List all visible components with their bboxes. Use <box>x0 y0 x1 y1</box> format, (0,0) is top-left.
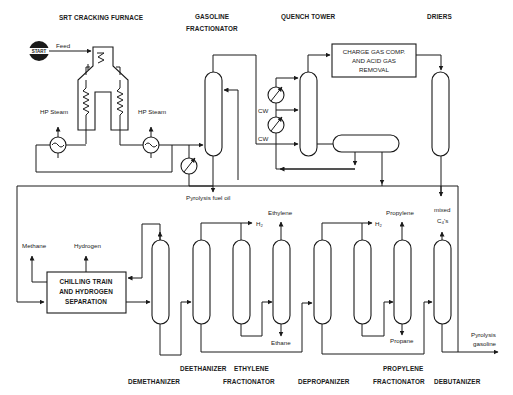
quench-cooler-top <box>268 87 284 103</box>
box-charge-gas-line3: REMOVAL <box>359 66 389 73</box>
stream-ethane: Ethane <box>271 339 291 346</box>
box-charge-gas-line1: CHARGE GAS COMP. <box>343 48 406 55</box>
stream-hp-steam-right: HP Steam <box>138 108 166 115</box>
propylene-fractionator-column-a <box>354 240 371 324</box>
stream-cw-top: CW <box>258 107 268 114</box>
stream-feed: Feed <box>56 42 71 49</box>
tle-right <box>143 127 159 158</box>
depropanizer-column <box>314 240 331 324</box>
stream-pyrolysis-gasoline-1: Pyrolysis <box>471 331 496 338</box>
label-deethanizer: DEETHANIZER <box>180 365 227 372</box>
quench-tower-column <box>300 72 317 156</box>
ethylene-fractionator-column-b <box>273 240 290 324</box>
label-propylene: PROPYLENE <box>383 365 424 372</box>
gasoline-fractionator-column <box>205 72 222 156</box>
stream-h2-deethanizer: H₂ <box>256 220 263 227</box>
tle-left <box>50 127 66 158</box>
deethanizer-column <box>193 240 210 324</box>
debutanizer-column <box>434 240 451 324</box>
stream-ethylene: Ethylene <box>268 209 293 216</box>
stream-methane: Methane <box>22 242 47 249</box>
label-srt-cracking-furnace: SRT CRACKING FURNACE <box>59 14 144 21</box>
stream-c4s: C₄'s <box>437 217 448 224</box>
label-propylene-fractionator: FRACTIONATOR <box>373 378 425 385</box>
label-driers: DRIERS <box>427 13 452 20</box>
box-chilling-line1: CHILLING TRAIN <box>60 278 113 285</box>
stream-propane: Propane <box>390 337 414 344</box>
label-demethanizer: DEMETHANIZER <box>128 378 180 385</box>
quench-separator-drum <box>333 135 399 152</box>
stream-mixed: mixed <box>434 206 451 213</box>
stream-cw-bottom: CW <box>258 135 268 142</box>
label-gasoline-fractionator: FRACTIONATOR <box>186 25 238 32</box>
box-chilling-line2: AND HYDROGEN <box>59 288 113 295</box>
box-chilling-line3: SEPARATION <box>65 298 107 305</box>
label-gasoline: GASOLINE <box>195 13 230 20</box>
label-quench-tower: QUENCH TOWER <box>281 13 336 21</box>
start-badge: START <box>29 41 49 61</box>
stream-h2-depropanizer: H₂ <box>375 220 382 227</box>
ethylene-fractionator-column-a <box>233 240 250 324</box>
box-charge-gas-line2: AND ACID GAS <box>352 57 396 64</box>
demethanizer-column <box>152 240 169 324</box>
stream-pyrolysis-gasoline-2: gasoline <box>473 340 497 347</box>
process-flow-diagram: SRT CRACKING FURNACE GASOLINE FRACTIONAT… <box>0 0 513 395</box>
label-depropanizer: DEPROPANIZER <box>298 378 350 385</box>
stream-hydrogen: Hydrogen <box>74 242 101 249</box>
propylene-fractionator-column-b <box>394 240 411 324</box>
stream-propylene: Propylene <box>386 209 414 216</box>
label-ethylene-fractionator: FRACTIONATOR <box>223 378 275 385</box>
stream-pyrolysis-fuel-oil: Pyrolysis fuel oil <box>186 194 230 201</box>
stream-hp-steam-left: HP Steam <box>40 108 68 115</box>
svg-text:START: START <box>32 49 47 54</box>
label-ethylene: ETHYLENE <box>234 365 270 372</box>
drier-column <box>432 72 449 156</box>
label-debutanizer: DEBUTANIZER <box>434 378 481 385</box>
quench-cooler-bottom <box>268 117 284 133</box>
srt-cracking-furnace <box>78 47 128 144</box>
